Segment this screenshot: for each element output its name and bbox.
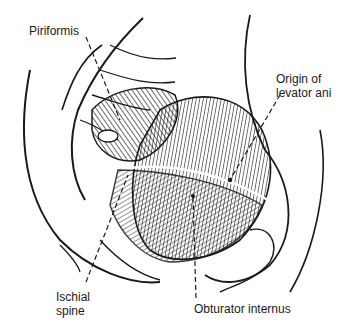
anatomical-diagram: Piriformis Origin of levator ani Ischial… bbox=[0, 0, 355, 331]
label-obturator-internus: Obturator internus bbox=[194, 302, 291, 316]
label-ischial-spine: Ischial spine bbox=[56, 290, 90, 318]
label-piriformis: Piriformis bbox=[29, 24, 79, 38]
label-origin-of-levator-ani: Origin of levator ani bbox=[276, 72, 331, 100]
label-origin-line1: Origin of bbox=[276, 72, 331, 86]
label-ischial-line1: Ischial bbox=[56, 290, 90, 304]
label-origin-line2: levator ani bbox=[276, 86, 331, 100]
pelvis-illustration bbox=[0, 0, 355, 331]
label-ischial-line2: spine bbox=[56, 304, 90, 318]
